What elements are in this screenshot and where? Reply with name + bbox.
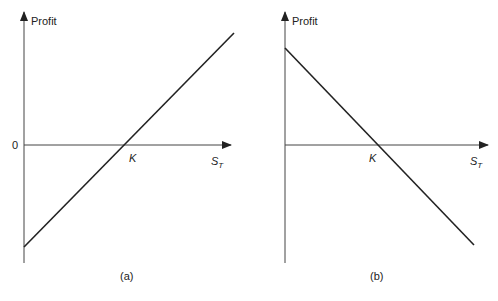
diagram-canvas: Profit 0 K ST (a) Profit K ST (b)	[0, 0, 498, 301]
y-axis-label-b: Profit	[292, 15, 318, 27]
profit-line-long-a	[24, 33, 234, 247]
y-axis-label-a: Profit	[31, 15, 57, 27]
x-axis-label-a: ST	[211, 155, 224, 170]
panel-a: Profit 0 K ST (a)	[12, 12, 234, 282]
profit-line-short-b	[285, 48, 474, 245]
strike-label-a: K	[129, 152, 137, 164]
caption-b: (b)	[370, 270, 383, 282]
x-axis-label-b: ST	[470, 155, 483, 170]
origin-label-a: 0	[12, 139, 18, 151]
panel-b: Profit K ST (b)	[285, 12, 488, 282]
caption-a: (a)	[120, 270, 133, 282]
strike-label-b: K	[369, 152, 377, 164]
